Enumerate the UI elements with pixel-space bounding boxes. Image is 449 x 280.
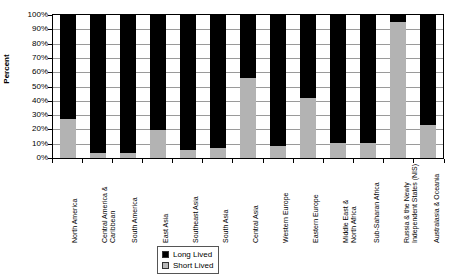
y-tick-label: 70% <box>32 54 48 62</box>
bar-segment-long-lived[interactable] <box>360 15 377 142</box>
bar-segment-short-lived[interactable] <box>420 124 437 158</box>
bar-slot <box>83 15 113 158</box>
black-square-icon <box>162 251 169 258</box>
bar-segment-long-lived[interactable] <box>270 15 287 145</box>
chart-container: Percent 100%90%80%70%60%50%40%30%20%10%0… <box>0 0 449 280</box>
stacked-bar[interactable] <box>300 15 317 158</box>
x-axis-labels: North AmericaCentral America &CaribbeanS… <box>52 163 444 243</box>
bar-series-group <box>53 15 443 158</box>
x-axis-label-line: Sub-Saharan Africa <box>373 163 381 243</box>
bar-segment-short-lived[interactable] <box>390 21 407 158</box>
stacked-bar[interactable] <box>390 15 407 158</box>
bar-slot <box>233 15 263 158</box>
y-tick-label: 50% <box>32 83 48 91</box>
bar-segment-long-lived[interactable] <box>90 15 107 152</box>
y-tick-label: 90% <box>32 25 48 33</box>
bar-segment-short-lived[interactable] <box>210 147 227 158</box>
x-axis-label-line: Eastern Europe <box>312 163 320 243</box>
bar-segment-long-lived[interactable] <box>60 15 77 118</box>
x-axis-label: Southeast Asia <box>192 163 200 243</box>
y-tick-label: 100% <box>28 11 48 19</box>
x-axis-label-line: South America <box>131 163 139 243</box>
bar-segment-short-lived[interactable] <box>360 142 377 158</box>
y-tick-label: 0% <box>36 154 48 162</box>
bar-segment-short-lived[interactable] <box>120 152 137 158</box>
legend-item: Short Lived <box>162 260 213 271</box>
x-axis-label-line: North America <box>71 163 79 243</box>
stacked-bar[interactable] <box>120 15 137 158</box>
legend-item-label: Long Lived <box>173 251 212 259</box>
x-label-cell: Central America &Caribbean <box>82 163 112 243</box>
y-tick-label: 80% <box>32 40 48 48</box>
bar-segment-short-lived[interactable] <box>180 149 197 158</box>
y-tick-label: 30% <box>32 111 48 119</box>
stacked-bar[interactable] <box>240 15 257 158</box>
y-axis-ticks: 100%90%80%70%60%50%40%30%20%10%0% <box>16 14 48 159</box>
x-label-cell: North America <box>52 163 82 243</box>
stacked-bar[interactable] <box>360 15 377 158</box>
x-label-cell: Central Asia <box>233 163 263 243</box>
x-axis-label: Sub-Saharan Africa <box>373 163 381 243</box>
x-label-cell: Western Europe <box>263 163 293 243</box>
bar-segment-long-lived[interactable] <box>300 15 317 97</box>
y-axis-title: Percent <box>2 39 16 99</box>
x-label-cell: South Asia <box>203 163 233 243</box>
y-tick-label: 60% <box>32 68 48 76</box>
x-axis-label: South America <box>131 163 139 243</box>
x-axis-label-line: East Asia <box>162 163 170 243</box>
legend-item-label: Short Lived <box>173 262 213 270</box>
bar-slot <box>413 15 443 158</box>
bar-segment-short-lived[interactable] <box>90 152 107 158</box>
bar-slot <box>113 15 143 158</box>
x-axis-label-line: Southeast Asia <box>192 163 200 243</box>
bar-slot <box>323 15 353 158</box>
legend-item: Long Lived <box>162 249 213 260</box>
x-label-cell: Australasia & Oceania <box>414 163 444 243</box>
bar-segment-long-lived[interactable] <box>210 15 227 147</box>
plot-area <box>52 14 444 159</box>
bar-segment-short-lived[interactable] <box>60 118 77 158</box>
bar-slot <box>293 15 323 158</box>
bar-segment-short-lived[interactable] <box>300 97 317 158</box>
bar-slot <box>173 15 203 158</box>
x-axis-label-line: Russia & the Newly <box>403 163 411 243</box>
bar-segment-short-lived[interactable] <box>240 77 257 159</box>
x-axis-label: North America <box>71 163 79 243</box>
x-axis-label: Eastern Europe <box>312 163 320 243</box>
x-axis-label: South Asia <box>222 163 230 243</box>
bar-segment-long-lived[interactable] <box>330 15 347 142</box>
gray-square-icon <box>162 262 169 269</box>
x-axis-label: East Asia <box>162 163 170 243</box>
bar-segment-long-lived[interactable] <box>180 15 197 149</box>
stacked-bar[interactable] <box>210 15 227 158</box>
bar-slot <box>353 15 383 158</box>
y-tick-label: 40% <box>32 97 48 105</box>
bar-segment-long-lived[interactable] <box>120 15 137 152</box>
x-axis-label: Western Europe <box>282 163 290 243</box>
x-label-cell: Russia & the NewlyIndependent States (NI… <box>384 163 414 243</box>
stacked-bar[interactable] <box>60 15 77 158</box>
y-tick-label: 10% <box>32 140 48 148</box>
bar-segment-short-lived[interactable] <box>330 142 347 158</box>
stacked-bar[interactable] <box>90 15 107 158</box>
bar-slot <box>53 15 83 158</box>
x-label-cell: Sub-Saharan Africa <box>354 163 384 243</box>
bar-slot <box>383 15 413 158</box>
stacked-bar[interactable] <box>420 15 437 158</box>
x-axis-label-line: Australasia & Oceania <box>433 163 441 243</box>
bar-segment-short-lived[interactable] <box>270 145 287 158</box>
x-label-cell: South America <box>112 163 142 243</box>
bar-slot <box>203 15 233 158</box>
y-tick-label: 20% <box>32 125 48 133</box>
x-label-cell: Southeast Asia <box>173 163 203 243</box>
bar-segment-short-lived[interactable] <box>150 129 167 158</box>
stacked-bar[interactable] <box>330 15 347 158</box>
x-axis-label: Central Asia <box>252 163 260 243</box>
stacked-bar[interactable] <box>270 15 287 158</box>
x-label-cell: Middle East &North Africa <box>323 163 353 243</box>
bar-segment-long-lived[interactable] <box>240 15 257 76</box>
stacked-bar[interactable] <box>150 15 167 158</box>
stacked-bar[interactable] <box>180 15 197 158</box>
bar-segment-long-lived[interactable] <box>420 15 437 124</box>
bar-segment-long-lived[interactable] <box>150 15 167 129</box>
